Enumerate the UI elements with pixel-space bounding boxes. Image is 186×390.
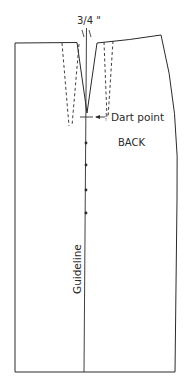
dart-point-label: Dart point xyxy=(111,111,164,123)
dart-width-label: 3/4 " xyxy=(77,15,101,26)
guideline-label: Guideline xyxy=(71,244,83,294)
guideline xyxy=(84,28,87,372)
dashed-dart-lines xyxy=(62,41,113,126)
dart-point-arrow-icon xyxy=(95,113,106,121)
skirt-back-pattern-diagram: 3/4 " Dart point BACK Guideline xyxy=(0,0,186,390)
piece-name-label: BACK xyxy=(118,137,146,148)
pattern-outline xyxy=(15,35,177,372)
